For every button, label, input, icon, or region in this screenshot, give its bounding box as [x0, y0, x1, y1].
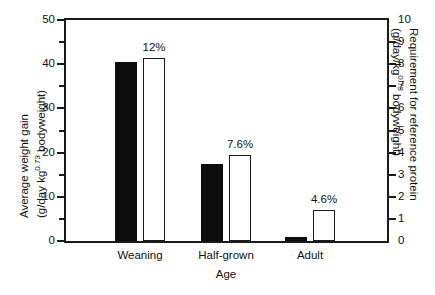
y-axis-right-label-1: 1 — [398, 213, 404, 225]
plot-area: 01020304050 012345678910 12%7.6%4.6% — [64, 18, 389, 243]
bar-value-label-adult: 4.6% — [311, 194, 337, 206]
y-axis-right-tick-7 — [389, 85, 396, 87]
bar-value-label-weaning: 12% — [142, 42, 165, 54]
y-axis-left-tick-50 — [57, 19, 64, 21]
x-axis-label-adult: Adult — [297, 249, 323, 261]
bar-value-label-half-grown: 7.6% — [227, 139, 253, 151]
y-axis-right-label-8: 8 — [398, 58, 404, 70]
y-axis-right-label-9: 9 — [398, 36, 404, 48]
y-axis-left-minor-tick-25 — [59, 130, 64, 132]
y-axis-left-minor-tick-5 — [59, 218, 64, 220]
y-axis-left-tick-0 — [57, 240, 64, 242]
y-axis-right-tick-9 — [389, 41, 396, 43]
x-axis-label-weaning: Weaning — [117, 249, 162, 261]
bar-protein-requirement-adult — [313, 210, 335, 241]
x-axis-label-half-grown: Half-grown — [198, 249, 254, 261]
y-axis-left-label-30: 30 — [42, 102, 55, 114]
y-axis-right-tick-2 — [389, 196, 396, 198]
y-axis-left-tick-40 — [57, 63, 64, 65]
y-axis-left-label-50: 50 — [42, 14, 55, 26]
y-axis-left-tick-10 — [57, 196, 64, 198]
y-axis-left-tick-30 — [57, 107, 64, 109]
y-axis-left-exponent: 0.73 — [33, 155, 42, 171]
y-axis-right-label-2: 2 — [398, 191, 404, 203]
bar-weight-gain-weaning — [115, 62, 137, 241]
axis-left — [64, 18, 66, 243]
y-axis-right-label-3: 3 — [398, 169, 404, 181]
y-axis-right-tick-3 — [389, 174, 396, 176]
y-axis-left-title-line1: Average weight gain — [18, 90, 31, 218]
y-axis-right-tick-8 — [389, 63, 396, 65]
y-axis-right-label-7: 7 — [398, 80, 404, 92]
bar-weight-gain-adult — [285, 237, 307, 241]
y-axis-right-tick-5 — [389, 130, 396, 132]
y-axis-right-tick-1 — [389, 218, 396, 220]
bar-protein-requirement-weaning — [143, 58, 165, 241]
y-axis-right-label-6: 6 — [398, 102, 404, 114]
y-axis-right-tick-4 — [389, 152, 396, 154]
y-axis-left-label-20: 20 — [42, 147, 55, 159]
y-axis-right-title-line1: Requirement for reference protein — [407, 28, 420, 201]
y-axis-left-minor-tick-15 — [59, 174, 64, 176]
bar-protein-requirement-half-grown — [229, 155, 251, 241]
bar-weight-gain-half-grown — [201, 164, 223, 241]
y-axis-right-label-0: 0 — [398, 235, 404, 247]
y-axis-left-minor-tick-35 — [59, 85, 64, 87]
bar-chart: Average weight gain (g/day kg0.73 bodywe… — [0, 0, 435, 295]
y-axis-left-label-40: 40 — [42, 58, 55, 70]
axis-bottom — [64, 241, 389, 243]
y-axis-left-tick-20 — [57, 152, 64, 154]
y-axis-left-minor-tick-45 — [59, 41, 64, 43]
y-axis-left-label-10: 10 — [42, 191, 55, 203]
y-axis-left-label-0: 0 — [49, 235, 55, 247]
axis-top — [64, 18, 389, 20]
y-axis-right-tick-6 — [389, 107, 396, 109]
y-axis-right-label-5: 5 — [398, 125, 404, 137]
y-axis-right-label-10: 10 — [398, 14, 411, 26]
x-axis-title: Age — [216, 268, 236, 280]
y-axis-right-label-4: 4 — [398, 147, 404, 159]
